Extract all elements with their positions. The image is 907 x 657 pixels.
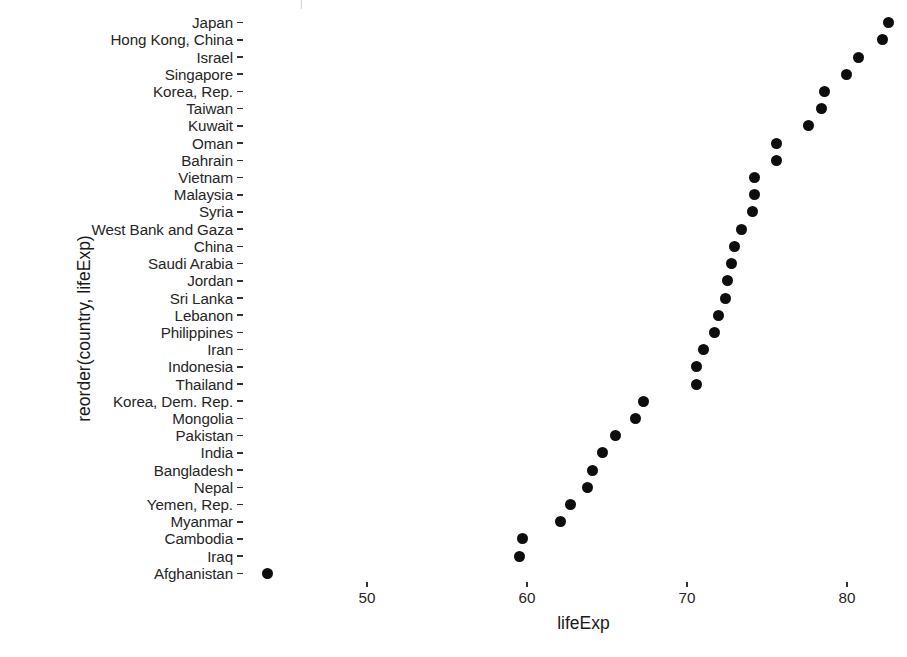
y-axis-tick-korea-rep: Korea, Rep. bbox=[153, 83, 245, 100]
data-point bbox=[691, 361, 702, 372]
y-axis-tick-mark bbox=[237, 538, 243, 540]
data-point bbox=[736, 224, 747, 235]
y-axis-tick-mark bbox=[237, 400, 243, 402]
y-axis-tick-label: Nepal bbox=[194, 479, 233, 496]
y-axis-tick-label: Yemen, Rep. bbox=[147, 496, 233, 513]
y-axis-tick-mark bbox=[237, 314, 243, 316]
x-axis-title: lifeExp bbox=[260, 613, 907, 634]
y-axis-tick-label: Indonesia bbox=[168, 358, 233, 375]
y-axis-tick-label: Israel bbox=[196, 49, 233, 66]
y-axis-tick-mark bbox=[237, 383, 243, 385]
y-axis-tick-mark bbox=[237, 504, 243, 506]
data-point bbox=[749, 172, 760, 183]
y-axis-tick-label: Mongolia bbox=[172, 410, 233, 427]
y-axis-tick-label: Korea, Dem. Rep. bbox=[113, 393, 233, 410]
data-point bbox=[841, 69, 852, 80]
data-point bbox=[638, 396, 649, 407]
x-axis-tick-label: 50 bbox=[359, 589, 376, 606]
y-axis-tick-mark bbox=[237, 73, 243, 75]
y-axis-tick-mark bbox=[237, 366, 243, 368]
y-axis-tick-label: Vietnam bbox=[178, 169, 233, 186]
y-axis-tick-jordan: Jordan bbox=[187, 272, 245, 289]
y-axis-tick-label: Taiwan bbox=[186, 100, 233, 117]
y-axis-tick-label: India bbox=[201, 444, 233, 461]
data-point bbox=[555, 516, 566, 527]
y-axis-tick-label: Syria bbox=[199, 203, 233, 220]
y-axis-tick-label: Korea, Rep. bbox=[153, 83, 233, 100]
y-axis-tick-label: Iran bbox=[207, 341, 233, 358]
data-point bbox=[729, 241, 740, 252]
y-axis-tick-mark bbox=[237, 452, 243, 454]
y-axis-tick-west-bank-and-gaza: West Bank and Gaza bbox=[92, 221, 245, 238]
y-axis-tick-mark bbox=[237, 487, 243, 489]
y-axis-tick-hong-kong-china: Hong Kong, China bbox=[110, 31, 245, 48]
y-axis-tick-label: Oman bbox=[192, 135, 233, 152]
y-axis-tick-label: Saudi Arabia bbox=[148, 255, 233, 272]
y-axis-tick-label: Malaysia bbox=[174, 186, 233, 203]
y-axis-tick-label: Sri Lanka bbox=[170, 290, 233, 307]
data-point bbox=[698, 344, 709, 355]
y-axis-tick-label: Jordan bbox=[187, 272, 233, 289]
x-axis-tick-mark bbox=[526, 582, 528, 587]
data-point bbox=[883, 17, 894, 28]
y-axis-tick-kuwait: Kuwait bbox=[188, 117, 245, 134]
data-point bbox=[726, 258, 737, 269]
y-axis-tick-lebanon: Lebanon bbox=[175, 307, 245, 324]
y-axis-tick-label: Thailand bbox=[176, 376, 233, 393]
x-axis-tick-mark bbox=[686, 582, 688, 587]
y-axis-tick-mongolia: Mongolia bbox=[172, 410, 245, 427]
y-axis-tick-taiwan: Taiwan bbox=[186, 100, 245, 117]
data-point bbox=[262, 568, 273, 579]
data-point bbox=[803, 120, 814, 131]
data-point bbox=[816, 103, 827, 114]
chart-figure: | reorder(country, lifeExp) JapanHong Ko… bbox=[0, 0, 907, 657]
y-axis-tick-mark bbox=[237, 573, 243, 575]
y-axis-tick-china: China bbox=[194, 238, 245, 255]
data-point bbox=[771, 138, 782, 149]
y-axis-tick-japan: Japan bbox=[192, 14, 245, 31]
y-axis-tick-label: Afghanistan bbox=[154, 565, 233, 582]
y-axis-tick-mark bbox=[237, 142, 243, 144]
x-axis-tick-mark bbox=[366, 582, 368, 587]
y-axis-tick-mark bbox=[237, 297, 243, 299]
y-axis-tick-thailand: Thailand bbox=[176, 376, 245, 393]
y-axis-tick-mark bbox=[237, 280, 243, 282]
y-axis-tick-mark bbox=[237, 418, 243, 420]
y-axis-tick-label: Iraq bbox=[207, 548, 233, 565]
x-axis-tick-mark bbox=[846, 582, 848, 587]
data-point bbox=[582, 482, 593, 493]
y-axis-tick-iraq: Iraq bbox=[207, 548, 245, 565]
data-point bbox=[747, 206, 758, 217]
x-axis: 50607080 bbox=[255, 582, 903, 616]
y-axis-tick-syria: Syria bbox=[199, 203, 245, 220]
data-point bbox=[877, 34, 888, 45]
y-axis-tick-israel: Israel bbox=[196, 49, 245, 66]
y-axis-tick-pakistan: Pakistan bbox=[176, 427, 245, 444]
x-axis-tick-label: 60 bbox=[519, 589, 536, 606]
y-axis-tick-nepal: Nepal bbox=[194, 479, 245, 496]
y-axis-tick-mark bbox=[237, 228, 243, 230]
data-point bbox=[610, 430, 621, 441]
data-point bbox=[713, 310, 724, 321]
x-axis-tick-label: 80 bbox=[839, 589, 856, 606]
y-axis-tick-indonesia: Indonesia bbox=[168, 358, 245, 375]
data-point bbox=[771, 155, 782, 166]
y-axis-tick-mark bbox=[237, 160, 243, 162]
y-axis-tick-labels: JapanHong Kong, ChinaIsraelSingaporeKore… bbox=[60, 0, 245, 657]
y-axis-tick-mark bbox=[237, 211, 243, 213]
y-axis-tick-mark bbox=[237, 194, 243, 196]
data-point bbox=[749, 189, 760, 200]
data-point bbox=[587, 465, 598, 476]
y-axis-tick-label: Kuwait bbox=[188, 117, 233, 134]
plot-panel bbox=[255, 14, 903, 582]
y-axis-tick-cambodia: Cambodia bbox=[165, 530, 245, 547]
y-axis-tick-mark bbox=[237, 469, 243, 471]
y-axis-tick-sri-lanka: Sri Lanka bbox=[170, 290, 245, 307]
y-axis-tick-label: Lebanon bbox=[175, 307, 233, 324]
y-axis-tick-india: India bbox=[201, 444, 245, 461]
y-axis-tick-bahrain: Bahrain bbox=[181, 152, 245, 169]
y-axis-tick-mark bbox=[237, 435, 243, 437]
y-axis-tick-label: Myanmar bbox=[170, 513, 233, 530]
data-point bbox=[819, 86, 830, 97]
y-axis-tick-afghanistan: Afghanistan bbox=[154, 565, 245, 582]
